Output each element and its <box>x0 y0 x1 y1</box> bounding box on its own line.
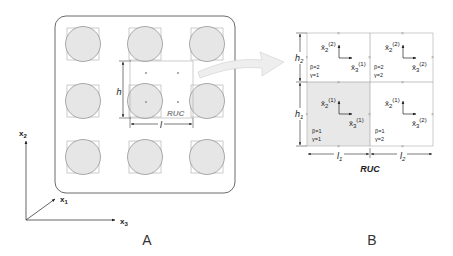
subcell-b2g1-gamma: γ=1 <box>310 72 319 78</box>
panel-b-label: B <box>367 232 376 248</box>
subcell-b2g2-gamma: γ=2 <box>374 72 383 78</box>
fiber-array <box>66 27 225 175</box>
svg-text:×: × <box>401 30 404 36</box>
axis-x2-label: x2 <box>19 129 27 139</box>
svg-text:×: × <box>368 111 371 117</box>
subcell-b1g1-gamma: γ=1 <box>312 136 321 142</box>
svg-text:×: × <box>431 54 434 60</box>
fiber <box>190 140 225 175</box>
subcell-b2g2-beta: β=2 <box>374 64 383 70</box>
subcell-b1g1-beta: β=1 <box>312 128 321 134</box>
fiber <box>66 84 101 119</box>
svg-text:×: × <box>337 30 340 36</box>
fiber <box>128 140 163 175</box>
axis-x3-label: x3 <box>120 217 128 227</box>
dim-h-label: h <box>116 87 121 97</box>
local-x2-b1g2: x̄2(1) <box>385 97 400 109</box>
panel-b: ×× ×× ×× ××× ××× x̄2(2) x̄3(1) <box>295 30 434 248</box>
fiber <box>128 27 163 62</box>
axis-x1-label: x1 <box>60 195 68 205</box>
fiber <box>66 140 101 175</box>
svg-text:×: × <box>337 143 340 149</box>
fiber <box>66 27 101 62</box>
panel-a: RUC h l x2 x1 x3 A <box>19 16 235 248</box>
panel-a-label: A <box>142 232 152 248</box>
svg-text:×: × <box>401 143 404 149</box>
fiber <box>128 84 163 119</box>
subcell-b2g1-beta: β=2 <box>310 64 319 70</box>
fiber <box>190 27 225 62</box>
svg-text:×: × <box>401 79 404 85</box>
subcell-b1g2-beta: β=1 <box>375 128 384 134</box>
svg-text:×: × <box>368 54 371 60</box>
local-x2-b2g1: x̄2(2) <box>321 41 336 53</box>
local-x3-b1g2: x̄3(2) <box>412 117 427 129</box>
svg-text:×: × <box>431 111 434 117</box>
ruc-label-a: RUC <box>167 109 185 118</box>
local-x2-b2g2: x̄2(2) <box>385 41 400 53</box>
fiber <box>190 84 225 119</box>
subcell-b1g2-gamma: γ=2 <box>375 136 384 142</box>
diagram-canvas: RUC h l x2 x1 x3 A <box>0 0 453 256</box>
svg-text:×: × <box>337 79 340 85</box>
local-x3-b2g1: x̄3(1) <box>351 61 366 73</box>
local-x3-b2g2: x̄3(2) <box>412 61 427 73</box>
ruc-label-b: RUC <box>360 164 380 174</box>
